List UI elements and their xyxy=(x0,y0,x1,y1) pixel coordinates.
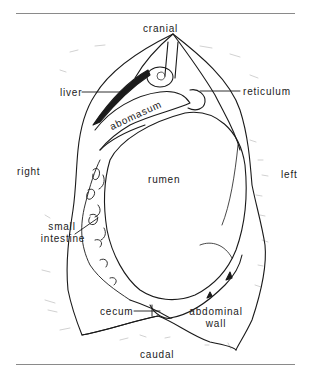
label-cranial: cranial xyxy=(143,23,178,34)
label-caudal: caudal xyxy=(140,349,174,360)
label-liver: liver xyxy=(60,87,82,98)
label-abdominal-wall-1: abdominal xyxy=(186,306,246,317)
anatomy-drawing xyxy=(0,0,310,383)
label-small-intestine-2: intestine xyxy=(38,233,88,244)
label-reticulum: reticulum xyxy=(243,86,291,97)
rumen-shape xyxy=(105,112,247,299)
label-right: right xyxy=(17,166,40,177)
label-left: left xyxy=(281,169,298,180)
abdominal-wall-right-flap xyxy=(173,34,265,350)
label-rumen: rumen xyxy=(148,174,180,185)
reticulum-shape xyxy=(147,67,173,87)
abdominal-wall-left-flap xyxy=(67,34,236,350)
label-cecum: cecum xyxy=(100,306,133,317)
label-abdominal-wall-2: wall xyxy=(186,318,246,329)
label-small-intestine-1: small xyxy=(40,221,84,232)
